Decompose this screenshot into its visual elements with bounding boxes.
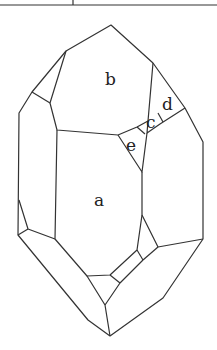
face-label-b: b [105,69,116,89]
crystal-diagram: b a e c d [0,0,217,350]
face-label-d: d [162,94,173,114]
top-table-border [0,0,217,5]
face-b-edges [50,51,153,135]
face-label-a: a [94,190,104,210]
face-label-c: c [146,112,156,132]
face-label-e: e [126,135,136,155]
